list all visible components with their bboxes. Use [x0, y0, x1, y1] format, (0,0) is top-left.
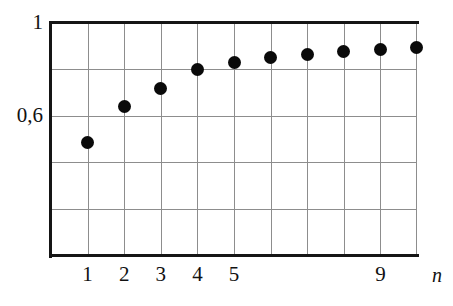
data-point-n1	[81, 136, 94, 149]
gridline-horizontal-4	[51, 209, 417, 210]
data-point-n7	[301, 48, 314, 61]
x-tick-label-2: 2	[111, 264, 137, 285]
gridline-vertical-n4	[197, 23, 198, 255]
x-tick-label-3: 3	[148, 264, 174, 285]
data-point-n4	[191, 63, 204, 76]
x-tick-label-5: 5	[221, 264, 247, 285]
gridline-vertical-n2	[124, 23, 125, 255]
data-point-n10	[410, 41, 423, 54]
gridline-vertical-n8	[344, 23, 345, 255]
x-tick-label-9: 9	[367, 264, 393, 285]
gridline-vertical-n10	[416, 23, 417, 255]
y-tick-label-0-6: 0,6	[0, 105, 43, 126]
x-tick-label-1: 1	[75, 264, 101, 285]
gridline-horizontal-2	[51, 116, 417, 117]
data-point-n3	[154, 82, 167, 95]
axis-top-line	[49, 21, 419, 24]
gridline-horizontal-1	[51, 69, 417, 70]
y-axis-line	[49, 21, 52, 258]
y-tick-label-1: 1	[10, 12, 43, 33]
data-point-n6	[264, 51, 277, 64]
scatter-chart-figure: 1 0,6 1 2 3 4 5 9 n	[0, 0, 453, 306]
data-point-n9	[374, 43, 387, 56]
gridline-vertical-n9	[380, 23, 381, 255]
x-axis-line	[49, 254, 419, 257]
data-point-n8	[337, 45, 350, 58]
gridline-vertical-n3	[161, 23, 162, 255]
x-axis-name: n	[432, 265, 442, 285]
x-tick-label-4: 4	[184, 264, 210, 285]
gridline-horizontal-3	[51, 162, 417, 163]
data-point-n2	[118, 100, 131, 113]
data-point-n5	[228, 56, 241, 69]
